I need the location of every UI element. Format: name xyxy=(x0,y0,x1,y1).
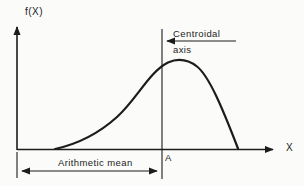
figure-canvas: f(X) X Centroidal axis A Arithmetic mean xyxy=(0,0,304,186)
figure-background xyxy=(0,0,304,186)
y-axis-label: f(X) xyxy=(25,6,43,17)
arithmetic-mean-label: Arithmetic mean xyxy=(58,157,133,168)
centroidal-label-line1: Centroidal xyxy=(173,28,220,39)
centroidal-label-line2: axis xyxy=(173,44,192,55)
x-axis-label: X xyxy=(286,142,293,153)
point-a-label: A xyxy=(165,152,172,163)
distribution-figure: f(X) X Centroidal axis A Arithmetic mean xyxy=(0,0,304,186)
